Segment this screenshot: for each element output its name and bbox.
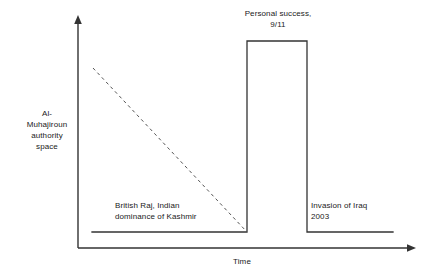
annotation-british-raj: British Raj, Indian dominance of Kashmir xyxy=(115,200,245,222)
annotation-personal-success: Personal success, 9/11 xyxy=(217,8,339,30)
x-axis xyxy=(78,244,416,252)
y-axis-label: Al- Muhajiroun authority space xyxy=(14,108,80,152)
annotation-invasion-of-iraq: Invasion of Iraq 2003 xyxy=(311,200,427,222)
figure-canvas: Al- Muhajiroun authority space Time Pers… xyxy=(0,0,433,279)
x-axis-label: Time xyxy=(212,256,272,267)
x-axis-arrowhead-icon xyxy=(407,244,416,252)
y-axis-arrowhead-icon xyxy=(74,15,82,24)
